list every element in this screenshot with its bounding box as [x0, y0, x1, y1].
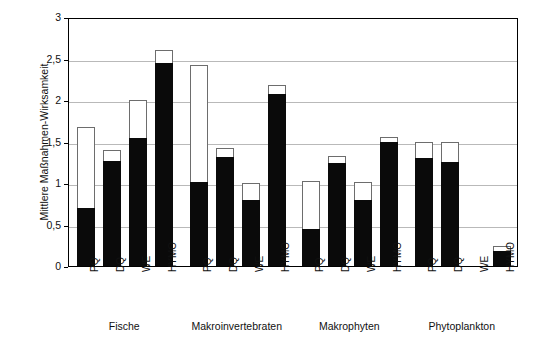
x-tick-label-pq: PQ [89, 258, 100, 272]
bar-segment-black [441, 162, 459, 266]
y-tick-mark [64, 143, 68, 144]
x-tick-label-hymo: HYMO [392, 242, 403, 272]
y-tick-mark [64, 184, 68, 185]
bar-phytoplankton-dq [441, 142, 459, 267]
bar-makroinvertebraten-dq [216, 148, 234, 266]
y-tick-mark [64, 60, 68, 61]
y-tick-label: 1,5 [28, 137, 61, 147]
x-tick-label-hymo: HYMO [280, 242, 291, 272]
bar-makroinvertebraten-pq [190, 65, 208, 266]
y-tick-label: 0 [28, 261, 61, 271]
x-tick-label-hymo: HYMO [167, 242, 178, 272]
y-tick-mark [64, 267, 68, 268]
x-tick-label-dq: DQ [228, 257, 239, 272]
bar-segment-black [129, 138, 147, 266]
bar-segment-black [155, 63, 173, 266]
group-label-fische: Fische [68, 320, 181, 332]
y-tick-mark [64, 101, 68, 102]
y-tick-label: 3 [28, 12, 61, 22]
x-tick-label-dq: DQ [115, 257, 126, 272]
x-tick-label-we: WE [366, 256, 377, 272]
plot-area [68, 18, 518, 267]
bar-fische-hymo [155, 50, 173, 266]
bar-segment-black [415, 158, 433, 266]
gridline [69, 61, 517, 62]
x-tick-label-dq: DQ [340, 257, 351, 272]
x-tick-label-pq: PQ [202, 258, 213, 272]
y-tick-label: 2 [28, 95, 61, 105]
y-tick-mark [64, 226, 68, 227]
x-tick-label-we: WE [141, 256, 152, 272]
bar-makroinvertebraten-we [242, 183, 260, 266]
x-tick-label-we: WE [254, 256, 265, 272]
bar-segment-black [268, 94, 286, 266]
chart-root: Mittlere Maßnahmen-Wirksamkeit 00,511,52… [0, 0, 533, 343]
group-label-makrophyten: Makrophyten [293, 320, 406, 332]
x-tick-label-we: WE [479, 256, 490, 272]
x-tick-label-hymo: HYMO [505, 242, 516, 272]
group-label-phytoplankton: Phytoplankton [406, 320, 519, 332]
bar-segment-black [103, 161, 121, 266]
bar-phytoplankton-pq [415, 142, 433, 267]
bar-segment-black [216, 157, 234, 266]
y-tick-label: 2,5 [28, 54, 61, 64]
bar-makrophyten-we [354, 182, 372, 266]
y-tick-label: 0,5 [28, 220, 61, 230]
bar-makrophyten-pq [302, 181, 320, 266]
bar-makroinvertebraten-hymo [268, 85, 286, 266]
x-tick-label-pq: PQ [427, 258, 438, 272]
bar-fische-pq [77, 127, 95, 266]
bar-segment-black [328, 163, 346, 266]
bar-makrophyten-dq [328, 156, 346, 266]
y-tick-mark [64, 18, 68, 19]
y-tick-label: 1 [28, 178, 61, 188]
group-label-makroinvertebraten: Makroinvertebraten [181, 320, 294, 332]
bar-fische-dq [103, 150, 121, 266]
bar-segment-black [190, 182, 208, 266]
x-tick-label-dq: DQ [453, 257, 464, 272]
bar-fische-we [129, 100, 147, 266]
x-tick-label-pq: PQ [314, 258, 325, 272]
